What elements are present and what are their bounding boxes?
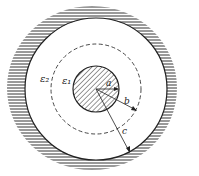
label-epsilon-2: ε₂ [40, 73, 49, 84]
label-a: a [106, 78, 111, 88]
label-b: b [124, 96, 130, 106]
label-epsilon-1: ε₁ [62, 75, 71, 86]
coaxial-diagram: ε₂ ε₁ a b c [0, 0, 199, 176]
label-c: c [122, 126, 127, 136]
